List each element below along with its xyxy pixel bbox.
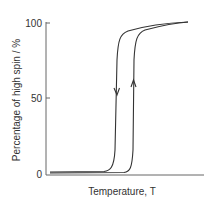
y-tick-label-0: 0: [36, 169, 42, 180]
hysteresis-chart: 100 50 0 Percentage of high spin / % Tem…: [0, 0, 214, 202]
y-axis-label: Percentage of high spin / %: [11, 39, 22, 161]
x-axis-label: Temperature, T: [88, 186, 156, 197]
y-tick-label-50: 50: [31, 93, 43, 104]
cooling-curve: [50, 22, 188, 172]
y-tick-label-100: 100: [25, 18, 42, 29]
